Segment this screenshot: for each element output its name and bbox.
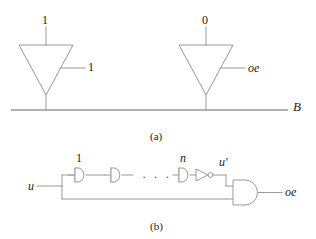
left-tristate-buffer-symbol xyxy=(19,45,73,95)
panel-a-caption: (a) xyxy=(150,131,162,142)
bus-label: B xyxy=(293,100,301,113)
buffer-stage-1-symbol xyxy=(75,168,84,182)
panel-b-caption: (b) xyxy=(150,221,163,232)
figure-container: 1 1 0 oe B (a) u 1 · · · n u' oe (b) xyxy=(0,0,316,239)
intermediate-uprime-label: u' xyxy=(219,156,228,168)
right-tristate-buffer-symbol xyxy=(179,45,233,95)
figure-drawing xyxy=(0,0,316,239)
left-buffer-data-input-label: 1 xyxy=(42,14,48,26)
inverter-symbol xyxy=(196,169,208,181)
buffer-stage-2-symbol xyxy=(111,168,120,182)
and-gate-output-symbol xyxy=(233,180,258,205)
output-oe-label: oe xyxy=(285,186,296,198)
chain-ellipsis: · · · xyxy=(142,169,172,185)
left-buffer-enable-label: 1 xyxy=(88,61,94,73)
buffer-stage-1-label: 1 xyxy=(76,152,82,164)
buffer-stage-n-symbol xyxy=(179,168,188,182)
buffer-stage-n-label: n xyxy=(180,152,186,164)
right-buffer-enable-label: oe xyxy=(248,62,259,74)
right-buffer-data-input-label: 0 xyxy=(202,14,208,26)
input-u-label: u xyxy=(28,180,34,192)
inverter-bubble-icon xyxy=(208,173,213,178)
